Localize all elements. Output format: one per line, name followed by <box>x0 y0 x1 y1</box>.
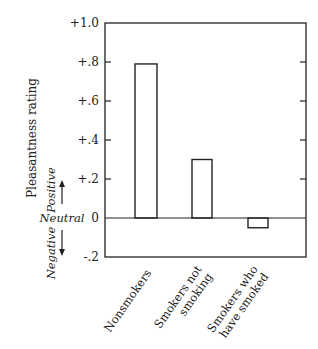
arrow-down-icon <box>59 230 65 256</box>
y-tick-label: +.2 <box>77 172 99 186</box>
category-label: Smokers whohave smoked <box>204 262 272 342</box>
chart: -.20+.2+.4+.6+.8+1.0 NonsmokersSmokers n… <box>0 0 318 349</box>
arrow-up-icon <box>59 180 65 204</box>
annotation-negative: Negative <box>44 226 58 280</box>
y-tick-label: +.6 <box>77 94 99 108</box>
category-labels: NonsmokersSmokers notsmokingSmokers whoh… <box>101 262 272 342</box>
y-tick-label: +.8 <box>77 55 99 69</box>
annotation-neutral: Neutral <box>39 211 85 225</box>
y-tick-label: 0 <box>91 211 99 225</box>
y-axis-title: Pleasantness rating <box>25 78 39 198</box>
y-tick-label: +.4 <box>77 133 99 147</box>
category-label-line: Nonsmokers <box>101 267 155 335</box>
y-tick-label: -.2 <box>83 250 99 264</box>
bar <box>135 64 157 218</box>
bar <box>192 160 212 219</box>
bars <box>135 64 268 228</box>
y-tick-label: +1.0 <box>70 16 99 30</box>
annotation-positive: Positive <box>44 167 58 214</box>
bar <box>248 218 268 228</box>
category-label: Nonsmokers <box>101 267 155 335</box>
